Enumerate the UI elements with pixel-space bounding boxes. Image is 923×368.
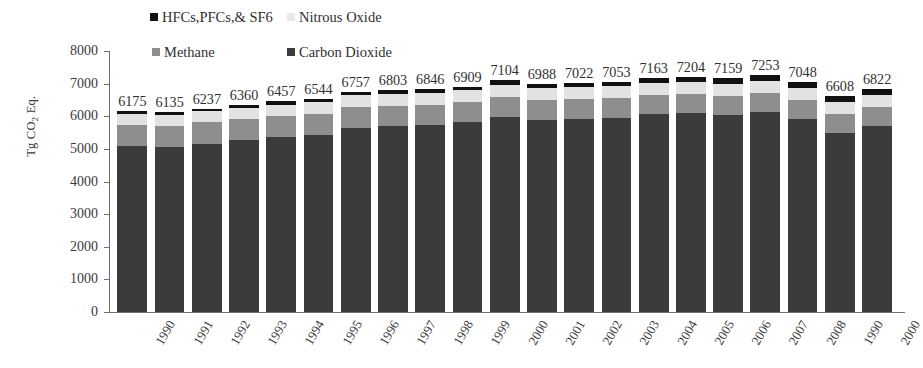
bar-segment-nitrous-oxide [453,90,483,102]
bar-segment-methane [862,107,892,126]
bar-column [415,89,445,312]
bar-segment-carbon-dioxide [825,133,855,312]
bar-segment-methane [304,114,334,135]
bar-segment-nitrous-oxide [788,88,818,100]
bar-segment-methane [564,99,594,119]
x-axis-tick-label: 2001 [563,318,587,347]
y-axis-tick-label: 8000 [46,44,98,58]
bar-segment-nitrous-oxide [750,81,780,93]
bar-segment-nitrous-oxide [602,86,632,98]
bar-segment-nitrous-oxide [676,82,706,94]
bar-segment-methane [117,125,147,147]
bar-segment-methane [825,114,855,133]
bar-segment-nitrous-oxide [713,84,743,96]
bar-column [825,96,855,312]
bar-segment-methane [341,107,371,127]
x-axis-tick-label: 1991 [191,318,215,347]
x-axis-tick-label: 2007 [786,318,810,347]
bar-segment-methane [229,119,259,140]
bar-segment-carbon-dioxide [862,126,892,312]
bar-total-label: 6175 [112,94,152,108]
x-axis-line [109,312,905,313]
x-axis-tick-label: 2002 [600,318,624,347]
y-axis-tick-label: 5000 [46,142,98,156]
bar-segment-nitrous-oxide [527,88,557,100]
bar-segment-carbon-dioxide [490,117,520,312]
x-axis-tick-label: 1998 [451,318,475,347]
bar-segment-methane [527,100,557,120]
bar-column [192,109,222,312]
bar-segment-carbon-dioxide [713,115,743,312]
bar-segment-nitrous-oxide [192,111,222,122]
bar-segment-carbon-dioxide [117,146,147,312]
x-axis-tick-label: 2004 [675,318,699,347]
bar-column [378,90,408,312]
bar-segment-methane [155,126,185,148]
bar-total-label: 7159 [708,61,748,75]
y-axis-tick-label: 4000 [46,175,98,189]
bar-total-label: 7204 [671,60,711,74]
x-axis-tick-label: 2000 [526,318,550,347]
x-axis-tick-label: 2008 [824,318,848,347]
bar-column [341,92,371,312]
x-axis-tick-label: 1996 [377,318,401,347]
bar-segment-nitrous-oxide [490,85,520,97]
bar-total-label: 6846 [410,72,450,86]
bar-segment-nitrous-oxide [266,105,296,116]
bar-segment-carbon-dioxide [266,137,296,312]
legend-swatch-hfcs-icon [150,13,158,21]
legend-item-hfcs: HFCs,PFCs,& SF6 [150,10,273,25]
x-axis-tick-label: 2005 [712,318,736,347]
x-axis-tick-label: 1994 [302,318,326,347]
bar-column [229,105,259,312]
y-axis-tick-label: 3000 [46,207,98,221]
bar-segment-carbon-dioxide [192,144,222,312]
bar-total-label: 6544 [299,82,339,96]
bar-segment-nitrous-oxide [639,83,669,95]
bar-segment-nitrous-oxide [415,93,445,105]
bar-column [155,112,185,312]
bar-segment-nitrous-oxide [564,87,594,99]
bar-segment-carbon-dioxide [453,122,483,312]
bar-segment-nitrous-oxide [862,95,892,107]
bar-total-label: 7048 [783,65,823,79]
bar-segment-methane [378,106,408,126]
bar-column [713,78,743,312]
bar-segment-nitrous-oxide [378,94,408,106]
bar-segment-nitrous-oxide [117,114,147,125]
bar-segment-carbon-dioxide [639,114,669,312]
bar-segment-nitrous-oxide [304,102,334,114]
y-axis-tick-label: 1000 [46,272,98,286]
bar-segment-methane [750,93,780,112]
y-axis-tick-label: 6000 [46,109,98,123]
bar-segment-carbon-dioxide [527,120,557,312]
bar-segment-nitrous-oxide [229,108,259,119]
bar-segment-carbon-dioxide [378,126,408,312]
x-axis-tick-label: 1999 [488,318,512,347]
bar-total-label: 7104 [485,63,525,77]
bar-column [639,78,669,312]
y-axis-tick-label: 0 [46,305,98,319]
bar-column [117,111,147,312]
bar-segment-methane [713,96,743,115]
y-axis-title: Tg CO2 Eq. [24,56,41,196]
bar-total-label: 6988 [522,67,562,81]
bar-segment-methane [192,122,222,143]
x-axis-tick-label: 1992 [228,318,252,347]
legend-item-nitrous-oxide: Nitrous Oxide [287,10,382,25]
x-axis-tick-label: 1997 [414,318,438,347]
bar-column [527,84,557,312]
y-axis-tick-mark [104,312,110,313]
bar-segment-methane [788,100,818,119]
bar-segment-nitrous-oxide [341,95,371,107]
bar-segment-carbon-dioxide [304,135,334,312]
x-axis-tick-label: 2003 [637,318,661,347]
bar-column [490,80,520,312]
bar-column [453,87,483,312]
bar-segment-methane [602,98,632,118]
bar-column [602,82,632,312]
bar-column [304,99,334,312]
bar-segment-carbon-dioxide [415,125,445,312]
bar-column [676,77,706,312]
